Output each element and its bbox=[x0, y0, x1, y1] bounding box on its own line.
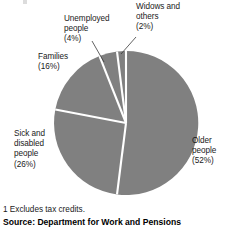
footnote-excludes-tax-credits: 1 Excludes tax credits. bbox=[3, 204, 235, 215]
source-line: Source: Department for Work and Pensions bbox=[3, 216, 235, 228]
pie-chart: Widows and others (2%) Unemployed people… bbox=[0, 0, 236, 200]
footnotes: 1 Excludes tax credits. Source: Departme… bbox=[3, 204, 235, 228]
pie-label-families: Families (16%) bbox=[38, 52, 68, 72]
pie-slice-older-people bbox=[117, 51, 198, 195]
chart-page: Widows and others (2%) Unemployed people… bbox=[0, 0, 236, 233]
pie-chart-svg bbox=[0, 0, 236, 200]
pie-label-widows-and-others: Widows and others (2%) bbox=[136, 2, 180, 33]
pie-slice-sick-and-disabled-people bbox=[54, 110, 126, 195]
pie-label-older-people: Older people (52%) bbox=[192, 136, 216, 167]
pie-label-unemployed-people: Unemployed people (4%) bbox=[64, 14, 109, 45]
pie-label-sick-and-disabled-people: Sick and disabled people (26%) bbox=[14, 129, 45, 170]
